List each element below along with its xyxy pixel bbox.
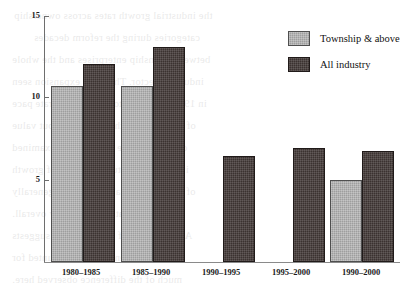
- y-tick-label-10: 10: [28, 92, 40, 101]
- y-tick-mark-15: [44, 16, 49, 17]
- bar-township-1990-2000: [330, 180, 362, 262]
- legend-entry-township-above: Township & above: [288, 27, 413, 49]
- bar-chart: the industrial growth rates across owner…: [0, 0, 413, 296]
- bar-all-industry-1990-2000: [362, 151, 394, 262]
- bar-township-1980-1985: [51, 86, 83, 262]
- x-axis-label-1990-2000: 1990–2000: [315, 268, 407, 277]
- y-tick-label-5: 5: [28, 175, 40, 184]
- legend-label-all-industry: All industry: [320, 59, 370, 70]
- y-axis-line: [44, 16, 45, 263]
- legend-swatch-icon-all-industry: [288, 57, 310, 72]
- x-axis-line: [44, 262, 400, 263]
- y-tick-mark-10: [44, 97, 49, 98]
- bar-township-1985-1990: [121, 86, 153, 262]
- legend-entry-all-industry: All industry: [288, 53, 413, 75]
- legend-swatch-icon-township-above: [288, 31, 310, 46]
- chart-legend: Township & above All industry: [288, 27, 413, 79]
- bar-all-industry-1995-2000: [293, 148, 325, 262]
- y-tick-mark-5: [44, 180, 49, 181]
- bleed-text-line: categories during the reform decades: [34, 32, 200, 43]
- bar-all-industry-1990-1995: [223, 156, 255, 262]
- bar-all-industry-1980-1985: [83, 64, 115, 262]
- bar-all-industry-1985-1990: [153, 47, 185, 262]
- legend-label-township-above: Township & above: [320, 33, 400, 44]
- y-tick-label-15: 15: [28, 11, 40, 20]
